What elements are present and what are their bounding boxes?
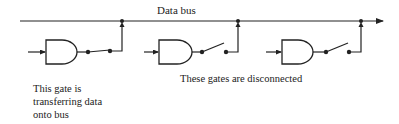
- gate-2-bus-link: [226, 25, 238, 52]
- gate-3-switch-open: [326, 43, 348, 52]
- data-bus-diagram: Data bus This gate is: [0, 0, 399, 124]
- gate-1-bus-junction: [120, 19, 124, 23]
- gate-2-disconnected: [144, 19, 241, 64]
- gate-3-bus-link: [349, 25, 361, 52]
- connected-gate-caption: This gate is transferring data onto bus: [33, 83, 102, 120]
- and-gate-2-icon: [159, 40, 192, 64]
- and-gate-3-icon: [282, 40, 313, 64]
- bus-label: Data bus: [157, 4, 196, 16]
- disconnected-gates-caption: These gates are disconnected: [180, 73, 303, 84]
- gate-1-bus-link: [110, 25, 122, 51]
- caption-line-3: onto bus: [33, 109, 69, 120]
- gate-1-connected: [28, 19, 125, 64]
- gate-2-switch-open: [202, 43, 224, 52]
- caption-line-1: This gate is: [33, 83, 81, 94]
- gate-2-bus-junction: [236, 19, 240, 23]
- gate-3-disconnected: [266, 19, 364, 64]
- gate-3-bus-junction: [359, 19, 363, 23]
- and-gate-1-icon: [46, 40, 77, 64]
- caption-line-2: transferring data: [33, 96, 102, 107]
- gate-1-switch-closed: [88, 50, 110, 52]
- data-bus: Data bus: [20, 4, 383, 21]
